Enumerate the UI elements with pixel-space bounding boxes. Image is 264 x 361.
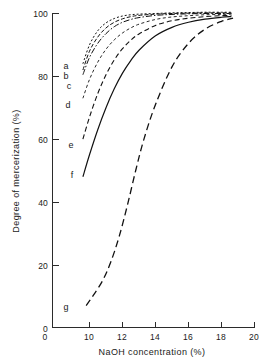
x-tick-label-18: 18 bbox=[216, 332, 226, 342]
curve-g bbox=[86, 18, 233, 305]
y-axis: 100 80 60 40 20 0 Degree of mercerizatio… bbox=[11, 9, 59, 334]
curve-f bbox=[83, 17, 232, 177]
curve-c bbox=[83, 13, 232, 74]
x-tick-label-0: 0 bbox=[43, 332, 48, 342]
x-tick-label-10: 10 bbox=[84, 332, 94, 342]
curve-label-b: b bbox=[63, 71, 68, 81]
x-tick-label-16: 16 bbox=[183, 332, 193, 342]
chart-figure: 100 80 60 40 20 0 Degree of mercerizatio… bbox=[0, 0, 264, 361]
x-axis-ticks bbox=[90, 322, 255, 328]
y-tick-label-100: 100 bbox=[33, 9, 48, 19]
curve-a bbox=[83, 12, 232, 64]
y-tick-label-20: 20 bbox=[38, 261, 48, 271]
y-tick-label-60: 60 bbox=[38, 135, 48, 145]
curve-label-g: g bbox=[63, 302, 68, 312]
x-axis-title: NaOH concentration (%) bbox=[99, 347, 206, 357]
y-axis-title: Degree of mercerization (%) bbox=[11, 109, 21, 232]
degree-of-mercerization-chart: 100 80 60 40 20 0 Degree of mercerizatio… bbox=[0, 0, 264, 361]
curve-b bbox=[83, 13, 232, 70]
x-axis: 0 10 12 14 16 18 20 NaOH concentration (… bbox=[43, 322, 259, 358]
curve-label-c: c bbox=[67, 81, 72, 91]
curve-label-d: d bbox=[65, 100, 70, 110]
curves-layer bbox=[83, 12, 233, 305]
y-tick-label-80: 80 bbox=[38, 72, 48, 82]
curve-label-f: f bbox=[71, 170, 74, 180]
y-tick-label-40: 40 bbox=[38, 198, 48, 208]
y-axis-ticks bbox=[53, 14, 59, 266]
curve-label-e: e bbox=[68, 140, 73, 150]
x-tick-label-12: 12 bbox=[117, 332, 127, 342]
x-tick-label-14: 14 bbox=[150, 332, 160, 342]
x-tick-label-20: 20 bbox=[249, 332, 259, 342]
curve-label-a: a bbox=[63, 61, 68, 71]
curve-labels-layer: abcdefg bbox=[63, 61, 73, 312]
